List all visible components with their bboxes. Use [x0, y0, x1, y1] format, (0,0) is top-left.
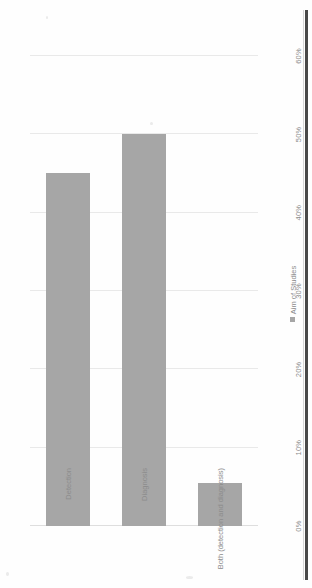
category-label: Diagnosis	[140, 468, 149, 520]
category-label: Both (detection and diagnosis)	[216, 468, 225, 578]
scanned-page: 0%10%20%30%40%50%60%DetectionDiagnosisBo…	[0, 0, 312, 588]
plot-area: 0%10%20%30%40%50%60%DetectionDiagnosisBo…	[30, 56, 258, 526]
legend-label-aim-of-studies: Aim of Studies	[289, 266, 298, 314]
category-label: Detection	[64, 468, 73, 520]
chart-stage: 0%10%20%30%40%50%60%DetectionDiagnosisBo…	[0, 0, 312, 588]
gridline-60%	[30, 55, 258, 56]
chart-legend: Aim of Studies	[288, 0, 298, 588]
legend-swatch-icon	[290, 317, 295, 322]
bar-chart: 0%10%20%30%40%50%60%DetectionDiagnosisBo…	[0, 0, 312, 588]
